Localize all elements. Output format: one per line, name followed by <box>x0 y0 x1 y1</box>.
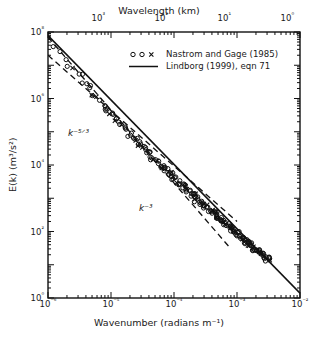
y-tick-label-3: 10² <box>16 227 44 236</box>
wavelength-tick-label-0: 10³ <box>92 14 105 23</box>
slope-label-k-minus-three: k⁻³ <box>139 203 153 213</box>
y-tick-label-1: 10⁶ <box>16 94 44 103</box>
legend-row-model: Lindborg (1999), eqn 71 <box>128 60 278 72</box>
x-tick-label-1: 10⁻⁵ <box>103 300 120 309</box>
x-tick-label-3: 10⁻³ <box>229 300 246 309</box>
y-tick-label-2: 10⁴ <box>16 161 44 170</box>
wavelength-tick-label-2: 10¹ <box>218 14 231 23</box>
legend-marker-circles-cross <box>128 49 162 60</box>
legend-label-lindborg: Lindborg (1999), eqn 71 <box>162 60 270 72</box>
y-tick-label-4: 10⁰ <box>16 294 44 303</box>
x-tick-label-2: 10⁻⁴ <box>166 300 183 309</box>
legend-row-data: Nastrom and Gage (1985) <box>128 48 278 60</box>
reference-line-0 <box>48 55 237 221</box>
data-marker-circle <box>58 49 62 53</box>
legend-marker-solid-line <box>128 61 162 72</box>
legend: Nastrom and Gage (1985) Lindborg (1999),… <box>128 48 278 72</box>
legend-label-nastrom-gage: Nastrom and Gage (1985) <box>162 48 278 60</box>
y-tick-label-0: 10⁸ <box>16 28 44 37</box>
x-tick-label-4: 10⁻² <box>292 300 309 309</box>
data-marker-circle <box>64 58 68 62</box>
data-marker-circle <box>51 45 55 49</box>
slope-label-k-minus-five-thirds: k⁻⁵ᐟ³ <box>68 128 89 138</box>
wavelength-tick-label-1: 10² <box>155 14 168 23</box>
data-marker-circle <box>97 98 101 102</box>
data-marker-circle <box>65 64 69 68</box>
figure-energy-spectrum: Wavelength (km) Wavenumber (radians m⁻¹)… <box>0 0 318 342</box>
wavelength-tick-label-3: 10⁰ <box>281 14 294 23</box>
